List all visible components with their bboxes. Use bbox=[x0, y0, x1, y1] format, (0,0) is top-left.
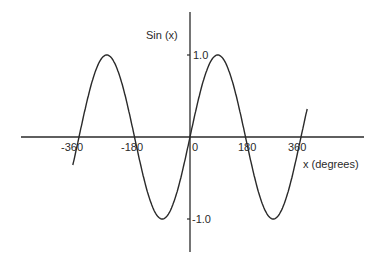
y-tick-label-1: 1.0 bbox=[193, 50, 208, 61]
y-axis-label: Sin (x) bbox=[146, 30, 178, 41]
y-tick-label-neg1: -1.0 bbox=[192, 214, 211, 225]
x-axis-label: x (degrees) bbox=[303, 159, 359, 170]
x-tick-label-neg180: -180 bbox=[121, 142, 143, 153]
x-tick-label-360: 360 bbox=[288, 142, 306, 153]
x-tick-label-neg360: -360 bbox=[61, 142, 83, 153]
x-tick-label-180: 180 bbox=[238, 142, 256, 153]
x-tick-label-0: 0 bbox=[192, 142, 198, 153]
sine-chart bbox=[0, 0, 382, 271]
